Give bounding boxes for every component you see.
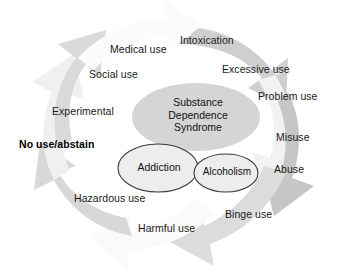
center-label-line-3: Syndrome [156, 121, 240, 134]
ring-label-excessive-use: Excessive use [222, 63, 290, 75]
center-ellipse-label: Substance Dependence Syndrome [156, 96, 240, 134]
ring-label-social-use: Social use [89, 68, 138, 80]
ring-label-binge-use: Binge use [225, 208, 272, 220]
ring-label-no-use-abstain: No use/abstain [19, 138, 94, 150]
ring-label-experimental: Experimental [52, 105, 114, 117]
ring-label-hazardous-use: Hazardous use [74, 192, 145, 204]
alcoholism-label: Alcoholism [198, 166, 256, 179]
ring-label-abuse: Abuse [274, 163, 304, 175]
center-label-line-1: Substance [156, 96, 240, 109]
addiction-label: Addiction [128, 161, 190, 174]
ring-label-harmful-use: Harmful use [138, 222, 195, 234]
ring-label-problem-use: Problem use [258, 90, 318, 102]
ring-label-intoxication: Intoxication [180, 34, 234, 46]
ring-label-misuse: Misuse [276, 131, 310, 143]
substance-dependence-cycle-diagram: Substance Dependence Syndrome Addiction … [0, 0, 352, 278]
center-label-line-2: Dependence [156, 109, 240, 122]
ring-label-medical-use: Medical use [110, 43, 167, 55]
